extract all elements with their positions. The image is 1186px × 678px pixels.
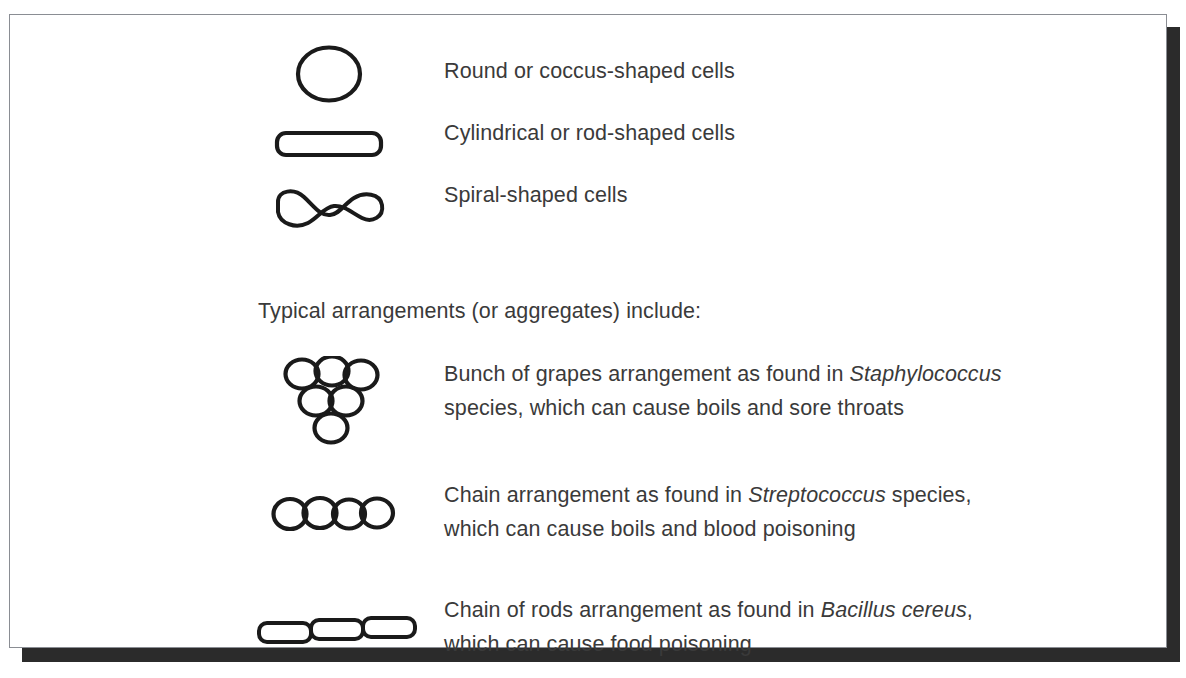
arrangement-line-2: species, which can cause boils and sore … <box>444 391 1002 425</box>
arrangement-line1-before: Bunch of grapes arrangement as found in <box>444 362 850 386</box>
rod-cell-icon <box>268 121 390 163</box>
arrangement-line-2: which can cause food poisoning <box>444 627 973 661</box>
spiral-cell-icon <box>268 178 392 236</box>
arrangement-line1-after: , <box>967 598 973 622</box>
cell-shape-label-coccus: Round or coccus-shaped cells <box>444 56 735 86</box>
arrangement-line1-before: Chain of rods arrangement as found in <box>444 598 821 622</box>
cocci-chain-icon <box>269 489 399 537</box>
arrangements-heading: Typical arrangements (or aggregates) inc… <box>258 296 701 326</box>
species-name-staphylococcus: Staphylococcus <box>850 362 1002 386</box>
species-name-bacillus-cereus: Bacillus cereus <box>821 598 967 622</box>
cell-shape-label-rod: Cylindrical or rod-shaped cells <box>444 118 735 148</box>
grape-cluster-icon <box>282 356 382 448</box>
arrangement-line-1: Bunch of grapes arrangement as found in … <box>444 357 1002 391</box>
arrangement-label-streptococcus: Chain arrangement as found in Streptococ… <box>444 478 972 546</box>
arrangement-line-1: Chain of rods arrangement as found in Ba… <box>444 593 973 627</box>
arrangement-label-bacillus: Chain of rods arrangement as found in Ba… <box>444 593 973 661</box>
bacteria-shapes-figure: Round or coccus-shaped cells Cylindrical… <box>0 0 1186 678</box>
rod-chain-icon <box>253 607 419 649</box>
arrangement-line-1: Chain arrangement as found in Streptococ… <box>444 478 972 512</box>
arrangement-line1-after: species, <box>886 483 972 507</box>
cell-shape-label-spiral: Spiral-shaped cells <box>444 180 628 210</box>
species-name-streptococcus: Streptococcus <box>748 483 886 507</box>
arrangement-line-2: which can cause boils and blood poisonin… <box>444 512 972 546</box>
figure-panel: Round or coccus-shaped cells Cylindrical… <box>9 14 1167 648</box>
arrangement-line1-before: Chain arrangement as found in <box>444 483 748 507</box>
circle-cell-icon <box>291 43 367 105</box>
arrangement-label-staphylococcus: Bunch of grapes arrangement as found in … <box>444 357 1002 425</box>
